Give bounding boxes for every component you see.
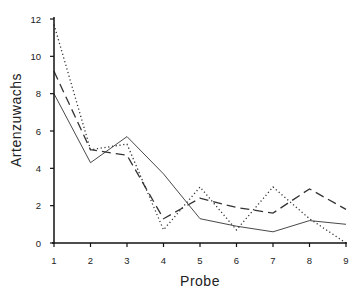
y-ticks: 024681012 (30, 14, 54, 249)
y-tick-label: 12 (30, 14, 41, 25)
x-tick-label: 5 (197, 255, 202, 266)
y-tick-label: 8 (36, 88, 41, 99)
y-tick-label: 0 (36, 238, 41, 249)
x-axis-title: Probe (180, 273, 220, 289)
series-dotted-line (54, 25, 346, 243)
series-dashed-line (54, 71, 346, 218)
x-tick-label: 8 (307, 255, 312, 266)
y-tick-label: 10 (30, 51, 41, 62)
y-tick-label: 2 (36, 200, 41, 211)
plot-lines (54, 25, 346, 243)
x-ticks: 123456789 (51, 243, 348, 266)
y-axis-title: Artenzuwachs (8, 73, 24, 167)
x-tick-label: 9 (343, 255, 348, 266)
y-tick-label: 4 (36, 163, 41, 174)
x-tick-label: 3 (124, 255, 129, 266)
x-tick-label: 7 (270, 255, 275, 266)
x-tick-label: 4 (161, 255, 166, 266)
x-tick-label: 1 (51, 255, 56, 266)
line-chart: 024681012 123456789 Probe Artenzuwachs (0, 0, 357, 295)
series-solid-line (54, 94, 346, 232)
x-tick-label: 6 (234, 255, 239, 266)
x-tick-label: 2 (88, 255, 93, 266)
y-tick-label: 6 (36, 126, 41, 137)
